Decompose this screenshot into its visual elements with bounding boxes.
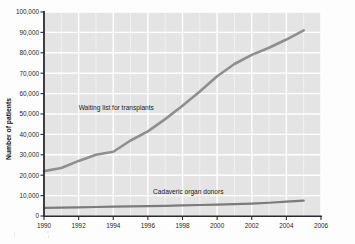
x-axis-ticks — [44, 217, 321, 221]
y-tick-label: 70,000 — [19, 70, 39, 77]
series-annotation-label: Cadaveric organ donors — [153, 188, 224, 196]
y-tick-label: 10,000 — [19, 192, 39, 199]
y-tick-label: 30,000 — [19, 151, 39, 158]
y-tick-label: 40,000 — [19, 131, 39, 138]
x-tick-label: 2002 — [245, 222, 260, 229]
y-axis-tick-labels: 010,00020,00030,00040,00050,00060,00070,… — [16, 8, 40, 219]
x-axis-tick-labels: 199019921994199619982000200220042006 — [37, 222, 329, 229]
y-tick-label: 0 — [35, 212, 39, 219]
series-annotation-label: Waiting list for transplants — [79, 104, 155, 112]
x-tick-label: 1994 — [106, 222, 121, 229]
x-tick-label: 2004 — [279, 222, 294, 229]
organ-transplant-line-chart: 010,00020,00030,00040,00050,00060,00070,… — [0, 0, 355, 244]
x-tick-label: 2006 — [314, 222, 329, 229]
scan-artifact — [47, 231, 49, 233]
x-tick-label: 1998 — [175, 222, 190, 229]
x-tick-label: 1996 — [141, 222, 156, 229]
chart-figure: 010,00020,00030,00040,00050,00060,00070,… — [0, 0, 355, 244]
y-tick-label: 80,000 — [19, 49, 39, 56]
scan-artifact — [48, 235, 49, 238]
y-tick-label: 60,000 — [19, 90, 39, 97]
y-axis-title: Number of patients — [5, 98, 13, 160]
x-tick-label: 1992 — [72, 222, 87, 229]
y-tick-label: 50,000 — [19, 110, 39, 117]
y-tick-label: 90,000 — [19, 29, 39, 36]
x-tick-label: 1990 — [37, 222, 52, 229]
scan-artifact — [14, 232, 15, 237]
y-tick-label: 20,000 — [19, 172, 39, 179]
y-tick-label: 100,000 — [16, 8, 40, 15]
x-tick-label: 2000 — [210, 222, 225, 229]
